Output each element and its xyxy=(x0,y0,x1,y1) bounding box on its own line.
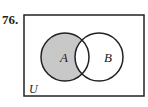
venn-diagram: A B U xyxy=(0,0,148,107)
universe-label: U xyxy=(29,82,39,96)
set-a-label: A xyxy=(59,50,68,65)
set-b-label: B xyxy=(104,50,112,65)
